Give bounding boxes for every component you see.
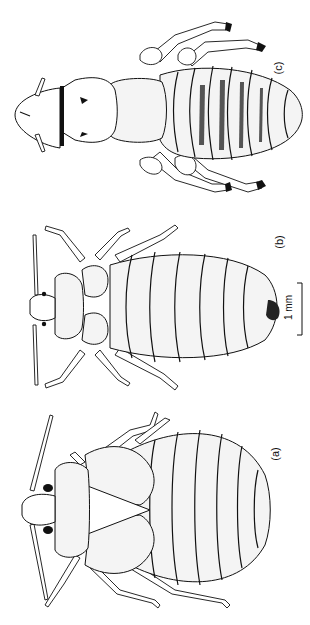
specimen-a-drawing (22, 412, 270, 608)
scale-bar-label: 1 mm (283, 295, 294, 320)
figure-drawing (0, 0, 310, 625)
scale-bar (297, 283, 302, 335)
specimen-c-label: (c) (272, 62, 284, 75)
specimen-c-drawing (15, 22, 302, 192)
insect-figure: (c) (b) (a) 1 mm (0, 0, 310, 625)
specimen-b-drawing (30, 225, 280, 390)
specimen-b-label: (b) (273, 235, 285, 248)
specimen-a-label: (a) (269, 447, 281, 460)
